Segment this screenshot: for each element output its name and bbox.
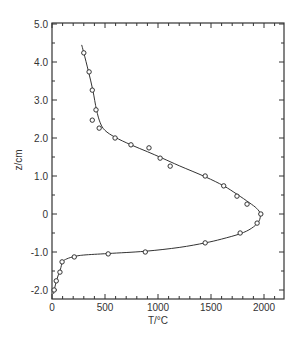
fit-curve [54, 45, 261, 294]
data-point [158, 156, 162, 160]
data-point [54, 279, 58, 283]
x-axis-label: T/°C [148, 315, 168, 326]
data-point [90, 88, 94, 92]
y-tick-label: 1.0 [34, 171, 48, 182]
data-point [147, 146, 151, 150]
data-point [106, 252, 110, 256]
x-tick-label: 1500 [200, 302, 223, 313]
data-point [259, 212, 263, 216]
data-point [58, 270, 62, 274]
data-point [203, 174, 207, 178]
y-tick-label: 3.0 [34, 95, 48, 106]
axis-tick-labels: 0500100015002000-2.0-1.001.02.03.04.05.0 [31, 19, 276, 314]
data-point [72, 255, 76, 259]
data-point [238, 231, 242, 235]
x-tick-label: 2000 [253, 302, 276, 313]
data-point [87, 70, 91, 74]
data-point [255, 221, 259, 225]
data-point [203, 241, 207, 245]
x-tick-label: 1000 [147, 302, 170, 313]
data-point [168, 164, 172, 168]
data-point [97, 126, 101, 130]
data-point [60, 260, 64, 264]
fit-curve-path [54, 45, 261, 294]
y-tick-label: -1.0 [31, 247, 49, 258]
x-tick-label: 500 [97, 302, 114, 313]
y-tick-label: -2.0 [31, 285, 49, 296]
data-point [52, 288, 56, 292]
data-point [143, 250, 147, 254]
data-point [129, 143, 133, 147]
chart: 0500100015002000-2.0-1.001.02.03.04.05.0… [0, 0, 301, 338]
data-markers [52, 51, 263, 293]
data-point [113, 136, 117, 140]
y-tick-label: 2.0 [34, 133, 48, 144]
y-tick-label: 4.0 [34, 57, 48, 68]
data-point [94, 108, 98, 112]
y-tick-label: 5.0 [34, 19, 48, 30]
data-point [222, 184, 226, 188]
data-point [235, 194, 239, 198]
data-point [90, 118, 94, 122]
data-point [82, 51, 86, 55]
y-tick-label: 0 [42, 209, 48, 220]
y-axis-label: z/cm [13, 149, 24, 170]
data-point [245, 202, 249, 206]
x-tick-label: 0 [49, 302, 55, 313]
